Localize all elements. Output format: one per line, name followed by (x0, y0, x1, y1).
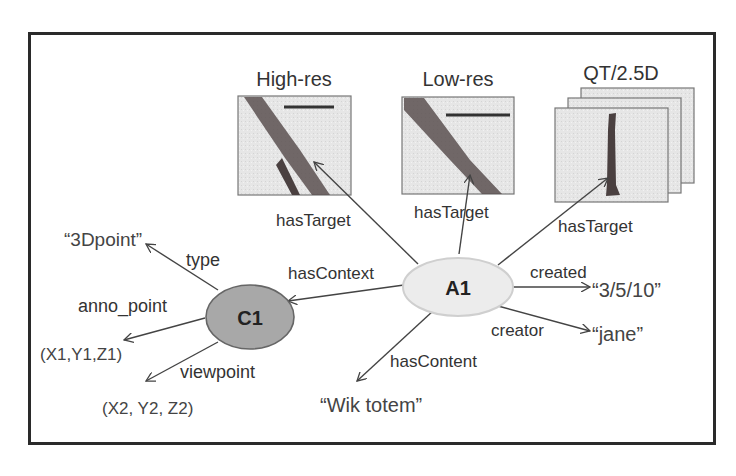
label-has-target-1: hasTarget (276, 211, 351, 230)
literal-date: “3/5/10” (592, 279, 661, 301)
literal-jane: “jane” (592, 323, 643, 345)
label-creator: creator (491, 321, 544, 340)
node-c1: C1 (206, 285, 294, 349)
label-has-content: hasContent (390, 352, 477, 371)
label-anno-point: anno_point (78, 296, 167, 317)
high-res-image: High-res (238, 68, 351, 195)
high-res-label: High-res (256, 68, 332, 90)
label-has-context: hasContext (288, 264, 374, 283)
edge-has-context (288, 285, 404, 301)
label-created: created (530, 263, 587, 282)
label-has-target-3: hasTarget (558, 217, 633, 236)
literal-3dpoint: “3Dpoint” (64, 229, 142, 250)
low-res-label: Low-res (422, 68, 493, 90)
literal-xyz2: (X2, Y2, Z2) (102, 399, 193, 418)
annotation-graph: High-res Low-res QT/2.5D A1 C1 hasTarget (0, 0, 736, 476)
literal-xyz1: (X1,Y1,Z1) (40, 345, 122, 364)
qt-label: QT/2.5D (583, 62, 659, 84)
qt-image-stack: QT/2.5D (555, 62, 694, 202)
label-viewpoint: viewpoint (180, 362, 255, 382)
edge-anno-point (124, 318, 205, 340)
node-a1: A1 (403, 258, 513, 316)
literal-wik-totem: “Wik totem” (320, 394, 422, 416)
low-res-image: Low-res (402, 68, 514, 194)
node-c1-label: C1 (237, 307, 263, 329)
node-a1-label: A1 (445, 277, 471, 299)
label-type: type (186, 250, 220, 270)
label-has-target-2: hasTarget (414, 203, 489, 222)
